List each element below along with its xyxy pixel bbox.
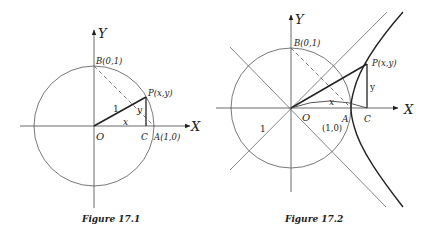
radius-label: 1 [113,104,119,114]
figure-17-2-caption: Figure 17.2 [284,214,343,224]
asymptote-positive [230,12,387,170]
point-a-label: A [341,114,349,124]
point-c-label: C [364,114,371,124]
figure-17-2: Y X B(0,1) P(x,y) O A (1,0) C 1 x y Figu… [216,12,414,224]
x-arc-label: x [329,97,334,107]
origin-label: O [302,112,310,123]
y-segment-label: y [369,82,376,92]
point-a-coords-label: (1,0) [322,123,342,133]
figure-17-1: Y X B(0,1) P(x,y) O C A(1,0) 1 x y Figur… [20,26,201,224]
y-axis-label: Y [98,26,108,41]
point-c-label: C [141,132,148,142]
radius-label: 1 [260,124,266,134]
figure-canvas: Y X B(0,1) P(x,y) O C A(1,0) 1 x y Figur… [0,0,431,230]
point-a-label: A(1,0) [153,132,180,142]
figure-17-1-caption: Figure 17.1 [81,214,140,224]
point-p-label: P(x,y) [371,58,397,68]
x-axis-label: X [403,102,414,117]
y-segment-label: y [136,105,143,115]
asymptote-negative [230,47,386,207]
origin-label: O [96,131,104,142]
hyperbola-branch [351,12,403,207]
x-segment-label: x [123,117,128,127]
x-axis-label: X [190,119,201,134]
y-axis-label: Y [295,12,305,27]
point-p-label: P(x,y) [147,88,173,98]
point-b-label: B(0,1) [293,38,320,48]
point-b-label: B(0,1) [95,56,122,66]
